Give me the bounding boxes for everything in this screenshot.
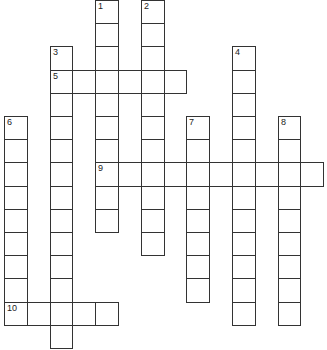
crossword-cell[interactable] xyxy=(4,232,28,256)
crossword-cell[interactable] xyxy=(4,278,28,303)
crossword-cell[interactable] xyxy=(50,139,73,163)
crossword-cell[interactable] xyxy=(278,278,301,303)
crossword-cell[interactable] xyxy=(95,46,119,71)
crossword-cell[interactable] xyxy=(300,162,324,187)
crossword-cell[interactable] xyxy=(278,139,301,163)
crossword-cell[interactable] xyxy=(232,278,256,303)
crossword-cell[interactable] xyxy=(164,162,187,187)
crossword-cell[interactable] xyxy=(232,139,256,163)
crossword-cell[interactable] xyxy=(50,162,73,187)
crossword-cell[interactable]: 6 xyxy=(4,116,28,140)
crossword-cell[interactable] xyxy=(141,93,165,117)
crossword-cell[interactable] xyxy=(118,162,142,187)
crossword-cell[interactable] xyxy=(95,93,119,117)
crossword-cell[interactable] xyxy=(141,139,165,163)
crossword-cell[interactable] xyxy=(95,302,119,326)
crossword-cell[interactable] xyxy=(141,232,165,256)
crossword-cell[interactable] xyxy=(118,70,142,94)
crossword-cell[interactable] xyxy=(232,116,256,140)
crossword-cell[interactable] xyxy=(186,139,210,163)
crossword-cell[interactable] xyxy=(4,186,28,210)
crossword-cell[interactable] xyxy=(95,116,119,140)
clue-number: 9 xyxy=(98,163,103,173)
crossword-cell[interactable] xyxy=(72,302,96,326)
crossword-cell[interactable] xyxy=(232,93,256,117)
crossword-cell[interactable] xyxy=(50,325,73,349)
crossword-cell[interactable] xyxy=(141,209,165,233)
crossword-cell[interactable] xyxy=(141,70,165,94)
crossword-cell[interactable] xyxy=(50,255,73,279)
clue-number: 2 xyxy=(144,1,149,11)
crossword-cell[interactable]: 5 xyxy=(50,70,73,94)
crossword-cell[interactable] xyxy=(278,302,301,326)
crossword-cell[interactable]: 1 xyxy=(95,0,119,24)
crossword-cell[interactable] xyxy=(278,255,301,279)
crossword-cell[interactable]: 8 xyxy=(278,116,301,140)
crossword-cell[interactable] xyxy=(50,116,73,140)
crossword-cell[interactable] xyxy=(278,209,301,233)
crossword-cell[interactable] xyxy=(141,186,165,210)
crossword-cell[interactable] xyxy=(95,70,119,94)
crossword-cell[interactable] xyxy=(50,302,73,326)
crossword-cell[interactable] xyxy=(50,93,73,117)
crossword-cell[interactable]: 7 xyxy=(186,116,210,140)
crossword-cell[interactable]: 2 xyxy=(141,0,165,24)
crossword-cell[interactable] xyxy=(95,209,119,233)
crossword-cell[interactable] xyxy=(141,116,165,140)
crossword-cell[interactable] xyxy=(186,255,210,279)
crossword-cell[interactable] xyxy=(186,162,210,187)
crossword-cell[interactable] xyxy=(232,186,256,210)
crossword-cell[interactable] xyxy=(164,70,187,94)
crossword-cell[interactable] xyxy=(95,139,119,163)
crossword-cell[interactable] xyxy=(186,209,210,233)
crossword-cell[interactable] xyxy=(232,232,256,256)
clue-number: 1 xyxy=(98,1,103,11)
crossword-cell[interactable] xyxy=(50,232,73,256)
crossword-cell[interactable] xyxy=(209,162,233,187)
crossword-cell[interactable]: 4 xyxy=(232,46,256,71)
clue-number: 3 xyxy=(53,47,58,57)
crossword-cell[interactable] xyxy=(278,232,301,256)
crossword-cell[interactable] xyxy=(72,70,96,94)
crossword-cell[interactable]: 10 xyxy=(4,302,28,326)
crossword-cell[interactable]: 3 xyxy=(50,46,73,71)
crossword-cell[interactable] xyxy=(141,162,165,187)
crossword-cell[interactable] xyxy=(278,186,301,210)
crossword-cell[interactable] xyxy=(4,162,28,187)
crossword-cell[interactable] xyxy=(4,139,28,163)
clue-number: 5 xyxy=(53,71,58,81)
clue-number: 4 xyxy=(235,47,240,57)
crossword-cell[interactable] xyxy=(255,162,279,187)
crossword-cell[interactable] xyxy=(278,162,301,187)
crossword-cell[interactable] xyxy=(4,255,28,279)
clue-number: 10 xyxy=(7,303,17,313)
crossword-cell[interactable] xyxy=(232,162,256,187)
clue-number: 8 xyxy=(281,117,286,127)
crossword-cell[interactable] xyxy=(186,232,210,256)
crossword-cell[interactable] xyxy=(95,186,119,210)
crossword-cell[interactable] xyxy=(232,209,256,233)
crossword-cell[interactable] xyxy=(50,209,73,233)
crossword-cell[interactable]: 9 xyxy=(95,162,119,187)
crossword-cell[interactable] xyxy=(232,70,256,94)
clue-number: 6 xyxy=(7,117,12,127)
crossword-cell[interactable] xyxy=(50,278,73,303)
crossword-cell[interactable] xyxy=(141,46,165,71)
clue-number: 7 xyxy=(189,117,194,127)
crossword-cell[interactable] xyxy=(50,186,73,210)
crossword-cell[interactable] xyxy=(27,302,51,326)
crossword-cell[interactable] xyxy=(232,255,256,279)
crossword-cell[interactable] xyxy=(186,186,210,210)
crossword-cell[interactable] xyxy=(232,302,256,326)
crossword-cell[interactable] xyxy=(95,23,119,47)
crossword-grid: 19235461078 xyxy=(0,0,327,350)
crossword-cell[interactable] xyxy=(141,23,165,47)
crossword-cell[interactable] xyxy=(186,278,210,303)
crossword-cell[interactable] xyxy=(4,209,28,233)
